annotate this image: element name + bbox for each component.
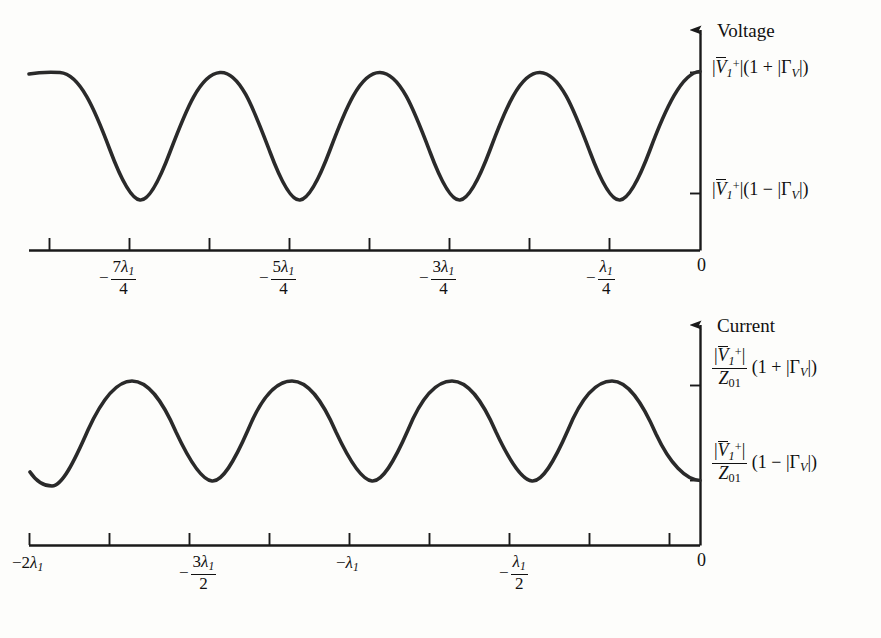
current-waveform xyxy=(30,381,700,486)
current-xtick-label-2lambda: −2λ1 xyxy=(12,553,43,574)
current-y-ticks xyxy=(690,386,700,481)
current-max-level-label: |V1+| Z01 (1 + |ΓV|) xyxy=(712,346,817,391)
voltage-origin-label: 0 xyxy=(697,255,706,276)
voltage-xtick-label-3lambda4: −3λ14 xyxy=(419,258,456,298)
voltage-x-ticks xyxy=(50,238,610,250)
current-chart xyxy=(29,325,701,546)
current-x-ticks xyxy=(30,533,670,545)
current-origin-label: 0 xyxy=(697,550,706,571)
voltage-xtick-label-7lambda4: −7λ14 xyxy=(99,258,136,298)
voltage-min-level-label: |V1+|(1 − |ΓV|) xyxy=(712,179,809,203)
voltage-xtick-label-lambda4: −λ14 xyxy=(586,258,615,298)
current-axis-title: Current xyxy=(717,315,775,337)
voltage-waveform xyxy=(29,72,700,201)
voltage-max-level-label: |V1+|(1 + |ΓV|) xyxy=(712,57,809,81)
voltage-y-ticks xyxy=(690,73,700,194)
voltage-xtick-label-5lambda4: −5λ14 xyxy=(259,258,296,298)
voltage-chart xyxy=(29,30,701,251)
current-xtick-label-lambda2: −λ12 xyxy=(499,553,528,593)
current-min-level-label: |V1+| Z01 (1 − |ΓV|) xyxy=(712,441,817,486)
voltage-axis-title: Voltage xyxy=(717,20,775,42)
current-xtick-label-3lambda2: −3λ12 xyxy=(179,553,216,593)
standing-wave-figure: Voltage |V1+|(1 + |ΓV|) |V1+|(1 − |ΓV|) … xyxy=(0,0,881,638)
current-xtick-label-lambda: −λ1 xyxy=(336,553,359,574)
